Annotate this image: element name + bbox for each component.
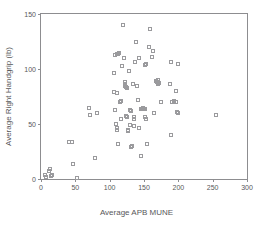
x-axis-tick: [213, 179, 214, 182]
data-point: [120, 64, 124, 68]
data-point: [147, 45, 151, 49]
x-axis-tick: [110, 179, 111, 182]
data-point: [144, 62, 148, 66]
data-point: [129, 109, 133, 113]
data-point: [134, 40, 138, 44]
data-point: [116, 142, 120, 146]
data-point: [136, 98, 140, 102]
data-point: [214, 113, 218, 117]
x-axis-tick: [178, 179, 179, 182]
scatter-plot-figure: 050100150050100150200250300 Average Righ…: [0, 0, 273, 230]
data-point: [157, 81, 161, 85]
plot-area: 050100150050100150200250300: [40, 13, 248, 180]
data-point: [137, 56, 141, 60]
data-point: [75, 176, 79, 180]
data-point: [168, 82, 172, 86]
x-axis-tick: [144, 179, 145, 182]
data-point: [88, 113, 92, 117]
data-point: [93, 156, 97, 160]
data-point: [112, 71, 116, 75]
data-point: [176, 62, 180, 66]
x-axis-tick-label: 250: [207, 184, 219, 191]
data-point: [117, 51, 121, 55]
x-axis-title: Average APB MUNE: [0, 208, 273, 217]
data-point: [125, 115, 129, 119]
y-axis-tick-label: 150: [24, 11, 36, 18]
y-axis-tick-label: 0: [32, 176, 36, 183]
data-point: [70, 140, 74, 144]
data-point: [176, 111, 180, 115]
x-axis-tick-label: 100: [104, 184, 116, 191]
data-point: [126, 129, 130, 133]
data-point: [95, 111, 99, 115]
data-point: [169, 133, 173, 137]
data-point: [119, 117, 123, 121]
data-point: [125, 86, 129, 90]
x-axis-tick-label: 50: [71, 184, 79, 191]
data-point: [148, 27, 152, 31]
y-axis-tick: [38, 124, 41, 125]
x-axis-tick: [41, 179, 42, 182]
data-point: [151, 49, 155, 53]
data-point: [128, 123, 132, 127]
data-point: [169, 60, 173, 64]
data-point: [121, 23, 125, 27]
data-point: [132, 124, 136, 128]
y-axis-tick-label: 50: [28, 121, 36, 128]
data-point: [50, 173, 54, 177]
data-point: [139, 154, 143, 158]
data-point: [135, 84, 139, 88]
data-point: [137, 126, 141, 130]
data-point: [48, 167, 52, 171]
data-point: [132, 115, 136, 119]
data-point: [115, 91, 119, 95]
data-point: [113, 108, 117, 112]
x-axis-tick: [247, 179, 248, 182]
data-point: [150, 55, 154, 59]
data-point: [143, 107, 147, 111]
data-point: [174, 89, 178, 93]
y-axis-tick: [38, 69, 41, 70]
x-axis-tick-label: 0: [39, 184, 43, 191]
data-point: [152, 111, 156, 115]
data-point: [133, 60, 137, 64]
data-point: [122, 56, 126, 60]
y-axis-title: Average Right Handgrip (lb): [2, 13, 15, 180]
y-axis-tick-label: 100: [24, 66, 36, 73]
x-axis-tick-label: 200: [172, 184, 184, 191]
data-point: [159, 100, 163, 104]
data-point: [145, 142, 149, 146]
data-point: [87, 106, 91, 110]
data-point: [174, 100, 178, 104]
data-point: [115, 128, 119, 132]
x-axis-tick-label: 150: [138, 184, 150, 191]
x-axis-tick-label: 300: [241, 184, 253, 191]
y-axis-tick: [38, 14, 41, 15]
data-point: [114, 122, 118, 126]
data-point: [127, 69, 131, 73]
data-point: [130, 144, 134, 148]
data-point: [119, 99, 123, 103]
data-point: [144, 117, 148, 121]
data-point: [71, 162, 75, 166]
